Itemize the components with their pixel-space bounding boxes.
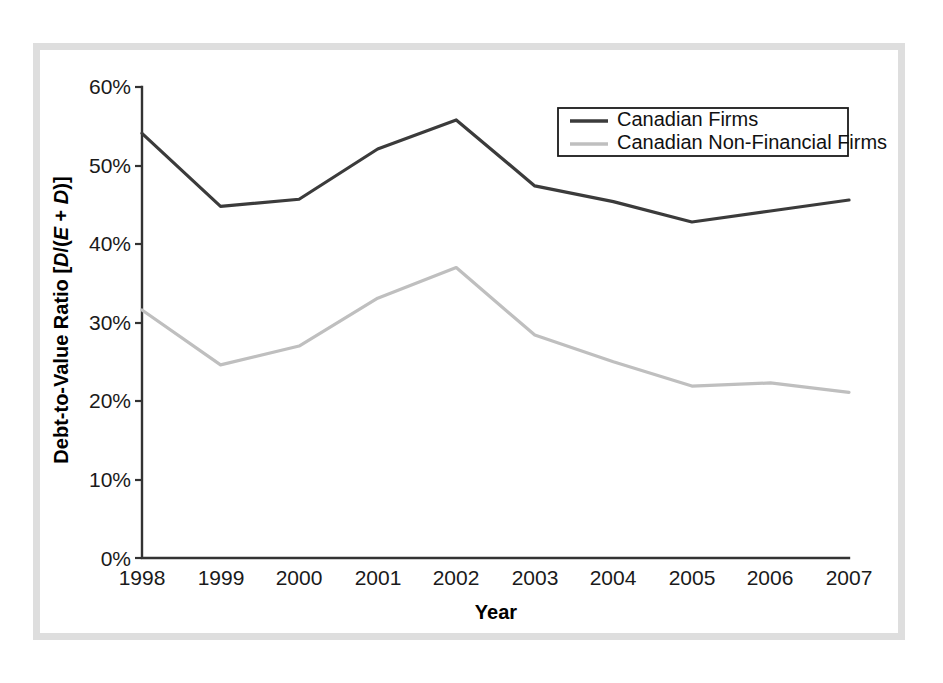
- y-tick-label-20: 20%: [89, 389, 131, 412]
- y-axis-title-plus: +: [50, 204, 72, 227]
- y-tick-label-30: 30%: [89, 311, 131, 334]
- x-tick-label-1999: 1999: [198, 566, 245, 589]
- legend-label-canadian-non-financial-firms: Canadian Non-Financial Firms: [617, 131, 887, 153]
- chart-legend: Canadian Firms Canadian Non-Financial Fi…: [558, 108, 887, 156]
- y-axis-title-prefix: Debt-to-Value Ratio [: [50, 267, 72, 464]
- legend-label-canadian-firms: Canadian Firms: [617, 108, 758, 130]
- y-axis-title-d1: D: [50, 253, 72, 267]
- x-tick-label-2002: 2002: [433, 566, 480, 589]
- y-axis-title-e: E: [50, 226, 72, 240]
- y-tick-label-50: 50%: [89, 154, 131, 177]
- y-axis-title-d2: D: [50, 190, 72, 204]
- y-axis-title-suffix: )]: [50, 176, 72, 189]
- x-tick-label-2006: 2006: [747, 566, 794, 589]
- y-axis-title: Debt-to-Value Ratio [D/(E + D)]: [50, 176, 72, 463]
- x-tick-label-1998: 1998: [119, 566, 166, 589]
- svg-text:Debt-to-Value Ratio [D/(E + D): Debt-to-Value Ratio [D/(E + D)]: [50, 176, 72, 463]
- y-tick-label-10: 10%: [89, 468, 131, 491]
- x-tick-label-2005: 2005: [669, 566, 716, 589]
- x-tick-label-2003: 2003: [512, 566, 559, 589]
- x-axis-tick-labels: 1998 1999 2000 2001 2002 2003 2004 2005 …: [119, 566, 873, 589]
- x-axis-title: Year: [475, 601, 517, 623]
- x-tick-label-2004: 2004: [590, 566, 637, 589]
- axis-lines: [142, 87, 849, 558]
- series-line-canadian-non-financial-firms: [142, 268, 849, 393]
- y-tick-label-60: 60%: [89, 75, 131, 98]
- line-chart: Debt-to-Value Ratio [D/(E + D)] 60% 50% …: [0, 0, 943, 683]
- x-tick-label-2001: 2001: [355, 566, 402, 589]
- x-tick-label-2000: 2000: [276, 566, 323, 589]
- y-axis-title-slash: /(: [50, 240, 72, 253]
- y-axis-tick-labels: 60% 50% 40% 30% 20% 10% 0%: [89, 75, 131, 570]
- y-tick-label-40: 40%: [89, 232, 131, 255]
- x-tick-label-2007: 2007: [826, 566, 873, 589]
- figure-root: Debt-to-Value Ratio [D/(E + D)] 60% 50% …: [0, 0, 943, 683]
